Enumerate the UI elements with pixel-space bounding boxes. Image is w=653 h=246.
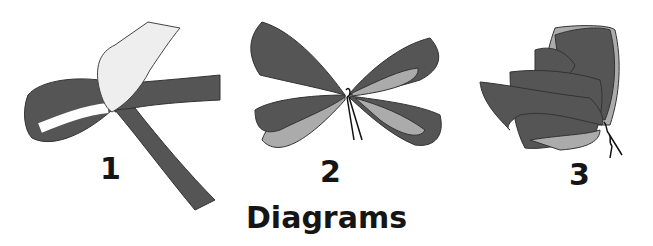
- ribbon-tail-down: [115, 108, 215, 210]
- step-number-1: 1: [100, 154, 121, 184]
- step-2-illustration: [251, 22, 441, 147]
- figure-title: Diagrams: [0, 203, 653, 233]
- step-1-illustration: [25, 22, 220, 210]
- twisted-wire-icon: [604, 122, 622, 158]
- step-3-illustration: [480, 26, 622, 158]
- step-number-3: 3: [569, 160, 590, 190]
- step-number-2: 2: [320, 157, 341, 187]
- bow-loop-left-top: [251, 22, 345, 95]
